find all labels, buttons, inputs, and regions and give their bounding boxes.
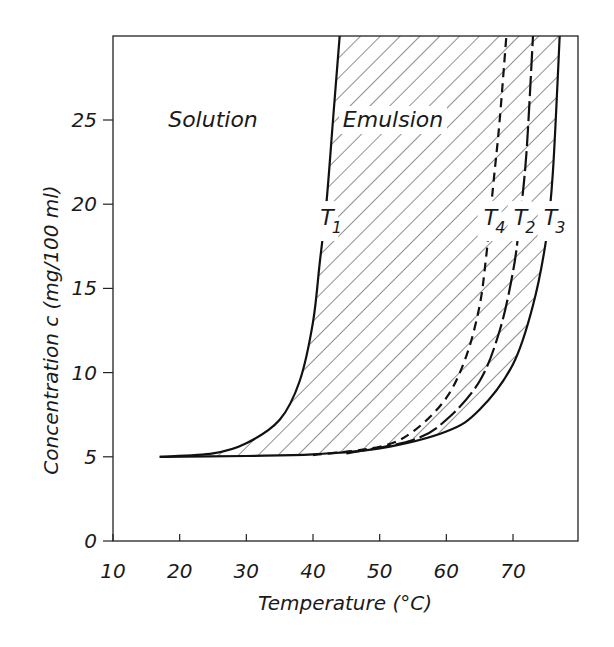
phase-diagram-chart: 10203040506070 0510152025 SolutionEmulsi… [0,0,614,647]
x-tick-label: 10 [100,559,125,583]
y-tick-label: 15 [72,276,97,300]
x-tick-label: 40 [300,559,325,583]
emulsion-hatched-region [160,36,560,457]
y-tick-label: 5 [84,445,97,469]
region-label-solution: Solution [168,107,258,132]
y-tick-label: 0 [84,529,97,553]
x-tick-label: 20 [167,559,192,583]
y-tick-label: 25 [72,108,97,132]
y-tick-label: 20 [72,192,97,216]
y-axis-label: Concentration c (mg/100 ml) [39,185,63,474]
x-tick-label: 70 [500,559,525,583]
y-tick-label: 10 [72,361,97,385]
region-label-emulsion: Emulsion [343,107,443,132]
y-axis-ticks: 0510152025 [72,108,113,553]
x-tick-label: 30 [234,559,259,583]
region-labels: SolutionEmulsion [159,106,447,134]
x-axis-label: Temperature (°C) [258,591,432,615]
x-tick-label: 50 [367,559,392,583]
x-tick-label: 60 [434,559,459,583]
